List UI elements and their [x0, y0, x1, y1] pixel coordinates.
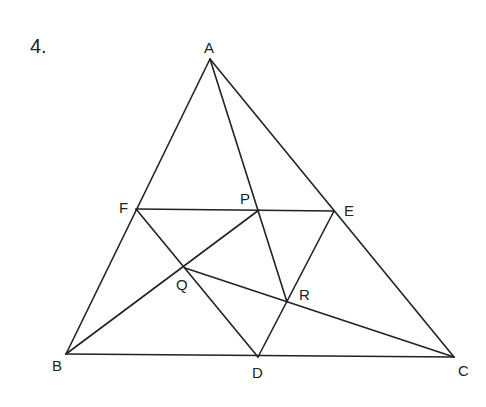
label-f: F [119, 200, 128, 215]
label-p: P [240, 191, 250, 206]
segment-cq [185, 268, 454, 357]
segment-fe [136, 209, 334, 211]
label-a: A [204, 40, 214, 55]
segment-ac [210, 59, 454, 357]
segment-ar [210, 59, 287, 302]
label-c: C [458, 363, 469, 378]
segment-de [258, 211, 334, 357]
segment-bp [66, 210, 259, 354]
label-e: E [344, 203, 354, 218]
segment-ab [66, 59, 210, 354]
label-q: Q [176, 277, 188, 292]
label-b: B [52, 358, 62, 373]
label-r: R [299, 287, 310, 302]
segment-fd [136, 209, 258, 357]
label-d: D [252, 365, 263, 380]
